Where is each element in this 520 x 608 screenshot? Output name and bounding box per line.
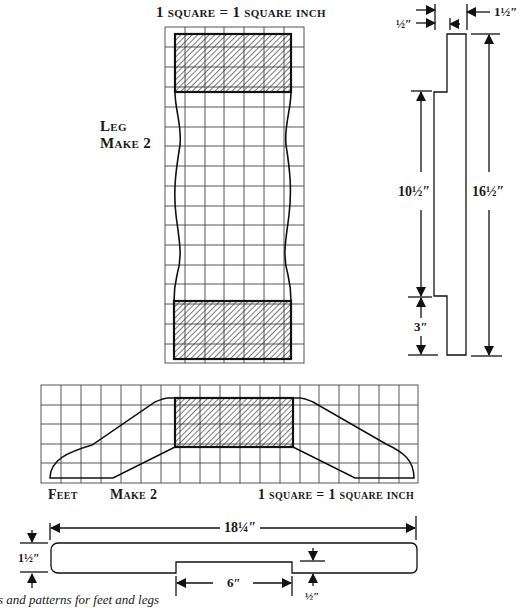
leg-grid-pattern	[165, 27, 304, 363]
leg-left-curve	[174, 92, 180, 301]
feet-scale-label: 1 square = 1 square inch	[258, 487, 414, 503]
leg-bottom-hatched-block	[174, 301, 291, 359]
dim-leg-notch-depth: ½″	[396, 18, 412, 30]
feet-profile-outline	[51, 543, 417, 573]
dim-leg-thickness: 1½″	[494, 5, 517, 18]
leg-right-curve	[285, 92, 291, 301]
leg-scale-label: 1 square = 1 square inch	[156, 4, 326, 21]
leg-profile-outline	[434, 34, 466, 355]
leg-title: Leg	[100, 118, 127, 135]
leg-make-label: Make 2	[100, 135, 151, 152]
feet-hatched-block	[175, 398, 293, 447]
dim-feet-notch-depth: ½″	[305, 591, 319, 602]
dim-feet-length: 18¼″	[224, 521, 256, 535]
dim-leg-lower-length: 3″	[414, 320, 428, 333]
dim-leg-upper-length: 10½″	[398, 185, 430, 199]
feet-grid-pattern	[41, 385, 418, 483]
feet-title: Feet	[48, 487, 78, 503]
figure-caption: s and patterns for feet and legs	[0, 592, 159, 608]
feet-make-label: Make 2	[110, 487, 157, 503]
leg-profile-drawing	[408, 4, 502, 356]
dim-feet-notch-width: 6″	[227, 576, 241, 589]
feet-profile-drawing	[20, 516, 417, 596]
leg-top-hatched-block	[175, 34, 291, 92]
dim-feet-height: 1½″	[18, 552, 40, 564]
dim-leg-total-length: 16½″	[472, 185, 504, 199]
